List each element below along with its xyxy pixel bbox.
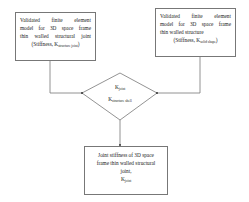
result-k-sub: joint bbox=[125, 179, 131, 183]
decision-line-1: Kjoint bbox=[90, 84, 150, 91]
result-k: Kjoint bbox=[89, 175, 163, 185]
left-stiffness-prefix: (Stiffness, K bbox=[32, 41, 59, 47]
left-box-line-2: model for 3D space frame bbox=[20, 24, 91, 32]
arrow-dot-right bbox=[156, 92, 158, 94]
result-line-3: joint, bbox=[89, 167, 163, 175]
left-connector bbox=[50, 60, 82, 93]
left-box-line-3: thin walled structural joint bbox=[20, 32, 91, 40]
result-line-1: Joint stiffness of 3D space bbox=[89, 151, 163, 159]
right-connector bbox=[157, 56, 200, 93]
result-line-2: frame thin walled structural bbox=[89, 159, 163, 167]
left-stiffness-suffix: ) bbox=[78, 41, 80, 47]
left-stiffness-sub: structure joint bbox=[58, 44, 78, 48]
arrow-dot-left bbox=[81, 92, 83, 94]
decision-line-2: Kstructure shell bbox=[90, 96, 150, 103]
right-box-stiffness: (Stiffness, Ksolid shape) bbox=[160, 36, 231, 46]
right-model-box: Validated finite element model for 3D sp… bbox=[155, 8, 236, 57]
decision-k2-sub: structure shell bbox=[112, 99, 132, 103]
right-stiffness-suffix: ) bbox=[216, 37, 218, 43]
left-model-box: Validated finite element model for 3D sp… bbox=[15, 12, 96, 61]
left-box-line-1: Validated finite element bbox=[20, 16, 91, 24]
decision-k1-sub: joint bbox=[119, 87, 125, 91]
right-stiffness-sub: solid shape bbox=[200, 40, 216, 44]
result-box: Joint stiffness of 3D space frame thin w… bbox=[84, 146, 168, 195]
right-box-line-3: thin walled structure bbox=[160, 28, 231, 36]
right-box-line-1: Validated finite element bbox=[160, 12, 231, 20]
left-box-stiffness: (Stiffness, Kstructure joint) bbox=[20, 40, 91, 50]
right-stiffness-prefix: (Stiffness, K bbox=[173, 37, 200, 43]
right-box-line-2: model for 3D space frame bbox=[160, 20, 231, 28]
